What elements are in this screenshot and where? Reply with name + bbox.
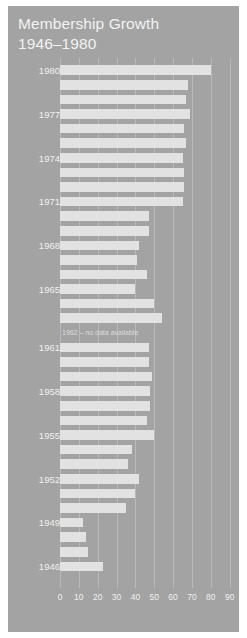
screenshot-root: Membership Growth 1946–1980 198019771974… bbox=[0, 0, 247, 638]
bar-1970 bbox=[60, 211, 149, 221]
bar-1971 bbox=[60, 197, 183, 207]
y-axis-label-1968: 1968 bbox=[8, 239, 60, 252]
bar-row bbox=[8, 458, 239, 473]
bar-row bbox=[8, 181, 239, 196]
bar-1960 bbox=[60, 357, 149, 367]
page-title-line-1: Membership Growth bbox=[18, 14, 233, 34]
bar-1963 bbox=[60, 313, 162, 323]
bar-row bbox=[8, 79, 239, 94]
bar-row bbox=[8, 210, 239, 225]
bar-1951 bbox=[60, 489, 135, 499]
bar-row: 1962 – no data available bbox=[8, 327, 239, 342]
bar-1978 bbox=[60, 95, 186, 105]
bar-1975 bbox=[60, 138, 186, 148]
bar-row: 1958 bbox=[8, 385, 239, 400]
plot-area: 1980197719741971196819651962 – no data a… bbox=[8, 58, 239, 598]
y-axis-label-1955: 1955 bbox=[8, 429, 60, 442]
bar-1980 bbox=[60, 65, 211, 75]
y-axis-label-1971: 1971 bbox=[8, 195, 60, 208]
y-axis-label-1965: 1965 bbox=[8, 283, 60, 296]
y-axis-label-1961: 1961 bbox=[8, 341, 60, 354]
bar-row: 1961 bbox=[8, 341, 239, 356]
y-axis-label-1952: 1952 bbox=[8, 473, 60, 486]
bar-1974 bbox=[60, 153, 183, 163]
bar-1959 bbox=[60, 372, 152, 382]
bar-1966 bbox=[60, 270, 147, 280]
bar-row: 1955 bbox=[8, 429, 239, 444]
bar-row bbox=[8, 502, 239, 517]
bar-row bbox=[8, 137, 239, 152]
bar-1973 bbox=[60, 168, 184, 178]
bar-row: 1965 bbox=[8, 283, 239, 298]
bar-1968 bbox=[60, 241, 139, 251]
bar-row bbox=[8, 268, 239, 283]
bar-1948 bbox=[60, 532, 86, 542]
bar-1956 bbox=[60, 416, 147, 426]
bar-row bbox=[8, 225, 239, 240]
bar-row bbox=[8, 487, 239, 502]
page-title-line-2: 1946–1980 bbox=[18, 34, 233, 54]
y-axis-label-1980: 1980 bbox=[8, 64, 60, 77]
bar-1954 bbox=[60, 445, 132, 455]
bar-1961 bbox=[60, 343, 149, 353]
bar-row bbox=[8, 312, 239, 327]
chart-header: Membership Growth 1946–1980 bbox=[18, 14, 233, 54]
bar-row bbox=[8, 546, 239, 561]
bar-row: 1968 bbox=[8, 239, 239, 254]
bar-1957 bbox=[60, 401, 150, 411]
bar-row: 1952 bbox=[8, 473, 239, 488]
bar-1967 bbox=[60, 255, 137, 265]
bar-1977 bbox=[60, 109, 190, 119]
y-axis-label-1974: 1974 bbox=[8, 152, 60, 165]
bar-1952 bbox=[60, 474, 139, 484]
bar-row bbox=[8, 414, 239, 429]
y-axis-label-1946: 1946 bbox=[8, 560, 60, 573]
bar-1964 bbox=[60, 299, 154, 309]
bar-row bbox=[8, 166, 239, 181]
bar-row bbox=[8, 356, 239, 371]
bar-1958 bbox=[60, 386, 150, 396]
bar-1976 bbox=[60, 124, 184, 134]
y-axis-label-1949: 1949 bbox=[8, 516, 60, 529]
bar-1979 bbox=[60, 80, 188, 90]
bar-row: 1977 bbox=[8, 108, 239, 123]
bar-1947 bbox=[60, 547, 88, 557]
chart-poster: Membership Growth 1946–1980 198019771974… bbox=[8, 6, 239, 632]
bar-row bbox=[8, 254, 239, 269]
bar-row bbox=[8, 122, 239, 137]
bar-row bbox=[8, 531, 239, 546]
bar-1950 bbox=[60, 503, 126, 513]
y-axis-label-1958: 1958 bbox=[8, 385, 60, 398]
bar-row bbox=[8, 400, 239, 415]
bar-1949 bbox=[60, 518, 83, 528]
x-tick-label-90: 90 bbox=[218, 592, 239, 603]
bar-row: 1974 bbox=[8, 152, 239, 167]
bar-1953 bbox=[60, 459, 128, 469]
bar-row bbox=[8, 370, 239, 385]
y-axis-label-1977: 1977 bbox=[8, 108, 60, 121]
bar-row: 1949 bbox=[8, 516, 239, 531]
bar-1965 bbox=[60, 284, 135, 294]
bar-row: 1980 bbox=[8, 64, 239, 79]
bar-1972 bbox=[60, 182, 184, 192]
bar-row bbox=[8, 93, 239, 108]
bar-rows: 1980197719741971196819651962 – no data a… bbox=[8, 64, 239, 575]
bar-1946 bbox=[60, 562, 103, 572]
x-axis: 0102030405060708090 bbox=[8, 588, 239, 614]
bar-1955 bbox=[60, 430, 154, 440]
bar-row: 1971 bbox=[8, 195, 239, 210]
bar-row bbox=[8, 298, 239, 313]
bar-row: 1946 bbox=[8, 560, 239, 575]
no-data-annotation: 1962 – no data available bbox=[62, 328, 138, 338]
bar-row bbox=[8, 443, 239, 458]
bar-1969 bbox=[60, 226, 149, 236]
